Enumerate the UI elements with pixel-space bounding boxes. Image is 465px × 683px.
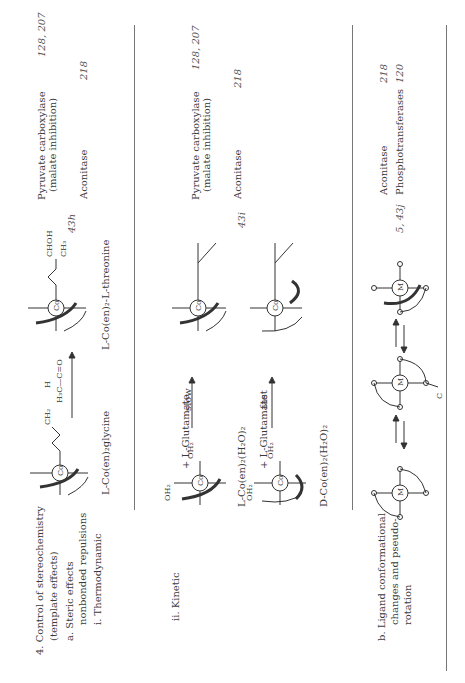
svg-text:OH₂: OH₂ bbox=[186, 442, 195, 459]
svg-text:CH₃: CH₃ bbox=[59, 241, 68, 257]
svg-text:Co: Co bbox=[52, 300, 61, 311]
rotated-page: 4. Control of stereochemistry (template … bbox=[0, 0, 465, 683]
svg-text:Co: Co bbox=[56, 465, 65, 476]
chemical-structures: CoCo CoCo CoCo MMM CH₂CHOHCH₃ H₃C—C=OH O… bbox=[0, 0, 465, 683]
svg-text:H: H bbox=[43, 381, 52, 388]
svg-text:C: C bbox=[435, 393, 444, 399]
svg-text:Co: Co bbox=[194, 300, 203, 311]
svg-text:Co: Co bbox=[196, 475, 205, 486]
svg-text:OH₂: OH₂ bbox=[245, 484, 254, 501]
svg-text:Co: Co bbox=[276, 475, 285, 486]
structure-co-glutamate-slow bbox=[172, 243, 226, 331]
svg-text:M: M bbox=[396, 378, 405, 386]
svg-text:M: M bbox=[396, 488, 405, 496]
structure-co-threonine bbox=[28, 259, 86, 331]
structure-co-glycine bbox=[30, 427, 88, 495]
svg-text:OH₂: OH₂ bbox=[266, 442, 275, 459]
svg-text:H₃C—C=O: H₃C—C=O bbox=[55, 359, 64, 403]
svg-text:OH₂: OH₂ bbox=[163, 484, 172, 501]
structure-co-glutamate-fast bbox=[250, 243, 302, 331]
svg-text:CHOH: CHOH bbox=[45, 230, 54, 257]
svg-text:CH₂: CH₂ bbox=[43, 409, 52, 425]
svg-text:Co: Co bbox=[271, 300, 280, 311]
svg-text:M: M bbox=[396, 283, 405, 291]
